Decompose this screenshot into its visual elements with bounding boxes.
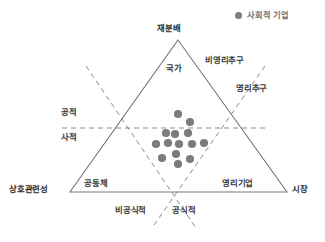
scatter-point — [172, 150, 180, 158]
scatter-point — [171, 130, 179, 138]
sector-label-state: 국가 — [166, 64, 182, 72]
axis-label-informal: 비공식적 — [115, 206, 146, 214]
scatter-point — [186, 118, 194, 126]
vertex-label-bottom-right: 시장 — [292, 185, 308, 193]
vertex-label-bottom-left: 상호관련성 — [9, 185, 48, 193]
diagram-canvas — [0, 0, 325, 242]
scatter-point — [164, 139, 172, 147]
scatter-point — [188, 140, 196, 148]
scatter-point — [152, 140, 160, 148]
axis-label-nonprofit-pursuit: 비영리추구 — [205, 56, 244, 64]
scatter-point — [162, 129, 170, 137]
sector-label-community: 공동체 — [84, 179, 107, 187]
scatter-point — [174, 160, 182, 168]
legend-label: 사회적 기업 — [247, 11, 289, 19]
scatter-point — [174, 110, 182, 118]
sector-label-for-profit: 영리기업 — [222, 179, 253, 187]
axis-label-profit-pursuit: 영리추구 — [236, 84, 267, 92]
vertex-label-top: 재분배 — [157, 24, 180, 32]
scatter-points-layer — [152, 110, 208, 168]
scatter-point — [184, 129, 192, 137]
axis-label-formal: 공식적 — [172, 206, 195, 214]
axis-label-public: 공적 — [61, 108, 77, 116]
scatter-point — [175, 140, 183, 148]
scatter-point — [186, 155, 194, 163]
ternary-diagram: 사회적 기업 재분배 상호관련성 시장 국가 공동체 영리기업 비영리추구 영리… — [0, 0, 325, 242]
scatter-point — [158, 154, 166, 162]
axis-label-private: 사적 — [61, 133, 77, 141]
scatter-point — [200, 139, 208, 147]
legend-marker-icon — [235, 12, 242, 19]
